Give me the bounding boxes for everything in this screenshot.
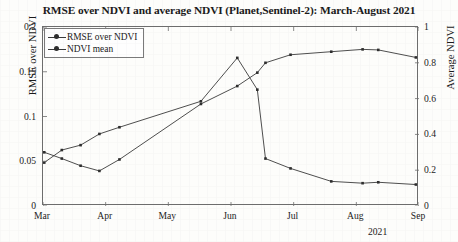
ytick-left-1: 0.05 xyxy=(19,155,36,166)
data-point-marker xyxy=(236,85,239,88)
chart-figure: RMSE over NDVI and average NDVI (Planet,… xyxy=(0,0,458,242)
legend-label-ndvi: NDVI mean xyxy=(66,44,113,55)
data-point-marker xyxy=(61,157,64,160)
series-layer xyxy=(43,48,417,186)
data-point-marker xyxy=(415,56,418,59)
ytick-right-4: 0.8 xyxy=(424,57,436,68)
data-point-marker xyxy=(98,170,101,173)
data-point-marker xyxy=(200,100,203,103)
legend-item-rmse[interactable]: RMSE over NDVI xyxy=(48,31,137,43)
series-line-ndvi xyxy=(44,49,416,171)
legend-marker-icon-ndvi xyxy=(48,44,66,54)
data-point-marker xyxy=(79,144,82,147)
data-point-marker xyxy=(289,167,292,170)
xtick-apr: Apr xyxy=(85,210,125,221)
chart-legend[interactable]: RMSE over NDVI NDVI mean xyxy=(44,28,144,58)
data-point-marker xyxy=(330,50,333,53)
data-point-marker xyxy=(43,151,46,154)
data-point-marker xyxy=(377,181,380,184)
data-point-marker xyxy=(377,49,380,52)
x-axis-year-label: 2021 xyxy=(368,226,387,237)
data-point-marker xyxy=(79,164,82,167)
data-point-marker xyxy=(264,157,267,160)
data-point-marker xyxy=(415,183,418,186)
data-point-marker xyxy=(264,62,267,65)
data-point-marker xyxy=(330,180,333,183)
series-line-rmse xyxy=(44,58,416,185)
y-axis-left-title: RMSE over NDVI xyxy=(27,0,38,136)
legend-item-ndvi[interactable]: NDVI mean xyxy=(48,43,137,55)
xtick-mar: Mar xyxy=(22,210,62,221)
data-point-marker xyxy=(200,103,203,106)
data-point-marker xyxy=(118,126,121,129)
ytick-right-1: 0.2 xyxy=(424,164,436,175)
data-point-marker xyxy=(361,48,364,51)
y-axis-right-title: Average NDVI xyxy=(445,0,456,138)
data-point-marker xyxy=(61,149,64,152)
xtick-may: May xyxy=(147,210,187,221)
legend-label-rmse: RMSE over NDVI xyxy=(66,32,137,43)
xtick-aug: Aug xyxy=(335,210,375,221)
data-point-marker xyxy=(236,57,239,60)
ytick-right-2: 0.4 xyxy=(424,128,436,139)
legend-marker-icon-rmse xyxy=(48,32,66,42)
data-point-marker xyxy=(361,182,364,185)
ytick-right-5: 1 xyxy=(424,21,429,32)
xtick-sep: Sep xyxy=(398,210,438,221)
xtick-jul: Jul xyxy=(273,210,313,221)
data-point-marker xyxy=(43,161,46,164)
xtick-jun: Jun xyxy=(210,210,250,221)
chart-title: RMSE over NDVI and average NDVI (Planet,… xyxy=(0,4,458,16)
data-point-marker xyxy=(256,71,259,74)
data-point-marker xyxy=(289,53,292,56)
data-point-marker xyxy=(98,133,101,136)
data-point-marker xyxy=(256,88,259,91)
data-point-marker xyxy=(118,158,121,161)
ytick-right-3: 0.6 xyxy=(424,93,436,104)
